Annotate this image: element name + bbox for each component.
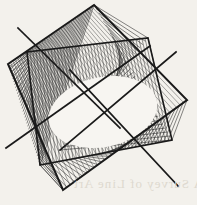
line-envelope-canvas [0, 0, 197, 205]
string-art-figure: A Survey of Line Art Line-envelope strin… [0, 0, 197, 205]
